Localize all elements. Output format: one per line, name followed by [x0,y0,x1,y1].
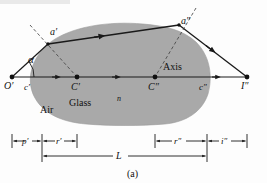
ray-diagram-svg: α O′ C′ C″ I″ a′ a″ c′ c″ Axis Air [0,0,267,183]
dimension-row-primary: p′ r′ r″ i″ [12,134,247,148]
dim-label-i-double: i″ [221,136,228,146]
point-label-C-double: C″ [148,81,160,92]
point-label-O-prime: O′ [4,80,14,91]
dimension-row-total-length: L [42,148,207,162]
dim-label-r-prime: r′ [56,136,63,146]
figure-container: α O′ C′ C″ I″ a′ a″ c′ c″ Axis Air [0,0,267,183]
point-dot-C-double [153,75,158,80]
glass-body-group [30,23,210,125]
dim-label-p-prime: p′ [21,136,30,146]
glass-label: Glass [69,97,91,108]
glass-body-shape [30,23,210,125]
axis-label: Axis [163,61,182,72]
dim-label-L: L [115,150,122,161]
point-dot-C-prime [75,75,80,80]
refracted-ray-arrowhead [206,46,213,51]
refractive-index-label: n [117,94,121,103]
air-label: Air [40,104,54,115]
ray-label-c-double: c″ [199,82,207,92]
dim-label-r-double: r″ [174,136,182,146]
ray-label-c-prime: c′ [24,82,31,92]
point-dot-O-prime [10,75,15,80]
point-label-C-prime: C′ [71,81,81,92]
point-label-a-double: a″ [181,15,191,26]
point-label-a-prime: a′ [50,26,58,37]
figure-caption: (a) [127,168,138,180]
angle-alpha-label: α [28,53,34,65]
point-dot-a-prime [46,42,49,45]
point-dot-I-double [245,75,250,80]
point-label-I-double: I″ [240,80,249,91]
